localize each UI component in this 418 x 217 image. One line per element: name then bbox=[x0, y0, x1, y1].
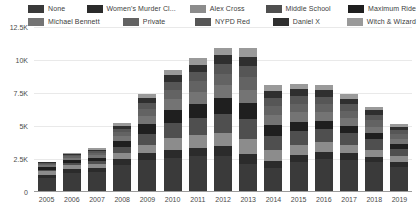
legend-item[interactable]: None bbox=[28, 3, 87, 15]
bar-segment[interactable] bbox=[189, 135, 207, 148]
bar-segment[interactable] bbox=[138, 116, 156, 124]
bar-segment[interactable] bbox=[340, 160, 358, 192]
bar-segment[interactable] bbox=[290, 104, 308, 113]
bar-segment[interactable] bbox=[315, 129, 333, 142]
bar-segment[interactable] bbox=[315, 97, 333, 104]
bar-segment[interactable] bbox=[214, 85, 232, 98]
bar-segment[interactable] bbox=[315, 104, 333, 112]
stacked-bar[interactable] bbox=[214, 47, 232, 192]
bar-segment[interactable] bbox=[290, 155, 308, 162]
bar-segment[interactable] bbox=[340, 118, 358, 126]
bar-segment[interactable] bbox=[239, 164, 257, 192]
bar-segment[interactable] bbox=[113, 153, 131, 160]
bar-segment[interactable] bbox=[164, 138, 182, 150]
bar-segment[interactable] bbox=[164, 82, 182, 90]
bar-segment[interactable] bbox=[189, 65, 207, 73]
stacked-bar[interactable] bbox=[365, 106, 383, 192]
bar-segment[interactable] bbox=[315, 159, 333, 192]
bar-segment[interactable] bbox=[290, 131, 308, 145]
bar-segment[interactable] bbox=[365, 162, 383, 192]
bar-segment[interactable] bbox=[138, 153, 156, 160]
bar-segment[interactable] bbox=[189, 148, 207, 156]
bar-segment[interactable] bbox=[239, 139, 257, 154]
bar-segment[interactable] bbox=[264, 150, 282, 161]
bar-segment[interactable] bbox=[264, 168, 282, 192]
bar-segment[interactable] bbox=[189, 156, 207, 192]
bar-segment[interactable] bbox=[290, 96, 308, 104]
bar-segment[interactable] bbox=[390, 167, 408, 192]
bar-segment[interactable] bbox=[189, 118, 207, 135]
bar-segment[interactable] bbox=[239, 103, 257, 119]
bar-segment[interactable] bbox=[214, 74, 232, 86]
bar-segment[interactable] bbox=[365, 150, 383, 157]
stacked-bar[interactable] bbox=[88, 148, 106, 192]
bar-segment[interactable] bbox=[113, 165, 131, 192]
bar-segment[interactable] bbox=[340, 145, 358, 153]
bar-segment[interactable] bbox=[189, 58, 207, 65]
bar-segment[interactable] bbox=[239, 48, 257, 56]
bar-segment[interactable] bbox=[214, 98, 232, 113]
bar-segment[interactable] bbox=[264, 125, 282, 136]
legend-item[interactable]: Alex Cross bbox=[190, 3, 266, 15]
bar-segment[interactable] bbox=[315, 112, 333, 121]
bar-segment[interactable] bbox=[189, 92, 207, 104]
stacked-bar[interactable] bbox=[38, 162, 56, 192]
stacked-bar[interactable] bbox=[340, 94, 358, 192]
legend-item[interactable]: Women's Murder Cl... bbox=[87, 3, 190, 15]
bar-segment[interactable] bbox=[365, 127, 383, 134]
stacked-bar[interactable] bbox=[239, 48, 257, 192]
bar-segment[interactable] bbox=[239, 90, 257, 104]
bar-segment[interactable] bbox=[264, 98, 282, 106]
bar-segment[interactable] bbox=[63, 173, 81, 192]
bar-segment[interactable] bbox=[164, 123, 182, 138]
bar-segment[interactable] bbox=[315, 152, 333, 159]
stacked-bar[interactable] bbox=[390, 124, 408, 192]
bar-segment[interactable] bbox=[264, 106, 282, 115]
bar-segment[interactable] bbox=[290, 162, 308, 192]
bar-segment[interactable] bbox=[239, 154, 257, 164]
bar-segment[interactable] bbox=[189, 72, 207, 81]
legend-item[interactable]: Middle School bbox=[266, 3, 349, 15]
bar-segment[interactable] bbox=[164, 75, 182, 82]
stacked-bar[interactable] bbox=[290, 84, 308, 192]
bar-segment[interactable] bbox=[138, 109, 156, 116]
bar-segment[interactable] bbox=[38, 178, 56, 192]
bar-segment[interactable] bbox=[138, 124, 156, 134]
bar-segment[interactable] bbox=[290, 145, 308, 155]
stacked-bar[interactable] bbox=[189, 58, 207, 192]
bar-segment[interactable] bbox=[214, 156, 232, 192]
bar-segment[interactable] bbox=[239, 57, 257, 66]
bar-segment[interactable] bbox=[138, 160, 156, 192]
bar-segment[interactable] bbox=[88, 172, 106, 192]
bar-segment[interactable] bbox=[315, 142, 333, 151]
bar-segment[interactable] bbox=[164, 90, 182, 100]
bar-segment[interactable] bbox=[164, 110, 182, 123]
legend-item[interactable]: Maximum Ride bbox=[348, 3, 416, 15]
bar-segment[interactable] bbox=[138, 145, 156, 154]
stacked-bar[interactable] bbox=[315, 85, 333, 192]
bar-segment[interactable] bbox=[138, 134, 156, 145]
bar-segment[interactable] bbox=[214, 55, 232, 64]
bar-segment[interactable] bbox=[214, 48, 232, 55]
bar-segment[interactable] bbox=[214, 133, 232, 147]
bar-segment[interactable] bbox=[290, 112, 308, 122]
bar-segment[interactable] bbox=[340, 126, 358, 133]
bar-segment[interactable] bbox=[164, 150, 182, 158]
bar-segment[interactable] bbox=[189, 104, 207, 118]
bar-segment[interactable] bbox=[340, 111, 358, 118]
bar-segment[interactable] bbox=[365, 139, 383, 149]
bar-segment[interactable] bbox=[290, 122, 308, 131]
bar-segment[interactable] bbox=[264, 136, 282, 151]
bar-segment[interactable] bbox=[214, 64, 232, 74]
bar-segment[interactable] bbox=[164, 99, 182, 110]
bar-segment[interactable] bbox=[189, 81, 207, 92]
bar-segment[interactable] bbox=[239, 77, 257, 90]
bar-segment[interactable] bbox=[239, 66, 257, 77]
bar-segment[interactable] bbox=[264, 91, 282, 98]
bar-segment[interactable] bbox=[390, 149, 408, 156]
bar-segment[interactable] bbox=[214, 146, 232, 155]
bar-segment[interactable] bbox=[164, 158, 182, 192]
bar-segment[interactable] bbox=[315, 121, 333, 129]
bar-segment[interactable] bbox=[340, 133, 358, 145]
stacked-bar[interactable] bbox=[113, 123, 131, 192]
